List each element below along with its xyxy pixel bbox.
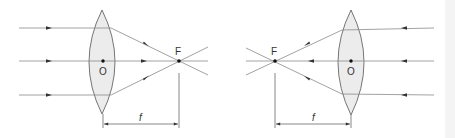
left-refracted-rays [111,28,208,95]
left-focal-point-label: F [175,46,181,57]
right-focal-length-label: f [312,112,316,123]
right-focal-point-label: F [271,46,277,57]
left-panel: O F f [19,10,208,128]
right-refracted-rays [246,30,342,94]
right-panel: O F f [246,10,434,128]
right-focal-point [273,59,277,63]
lens-diagram: O F f [0,0,455,138]
left-lens-center-point [101,59,104,62]
left-lens-center-label: O [99,66,107,77]
left-focal-length-label: f [139,112,143,123]
left-focal-point [177,59,181,63]
right-lens-center-label: O [347,66,355,77]
right-lens-center-point [349,59,352,62]
